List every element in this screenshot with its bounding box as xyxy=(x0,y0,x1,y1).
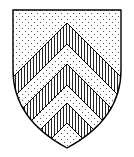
shield: Or, three chevronels Gules xyxy=(0,0,134,157)
shield-graphic xyxy=(0,0,134,157)
